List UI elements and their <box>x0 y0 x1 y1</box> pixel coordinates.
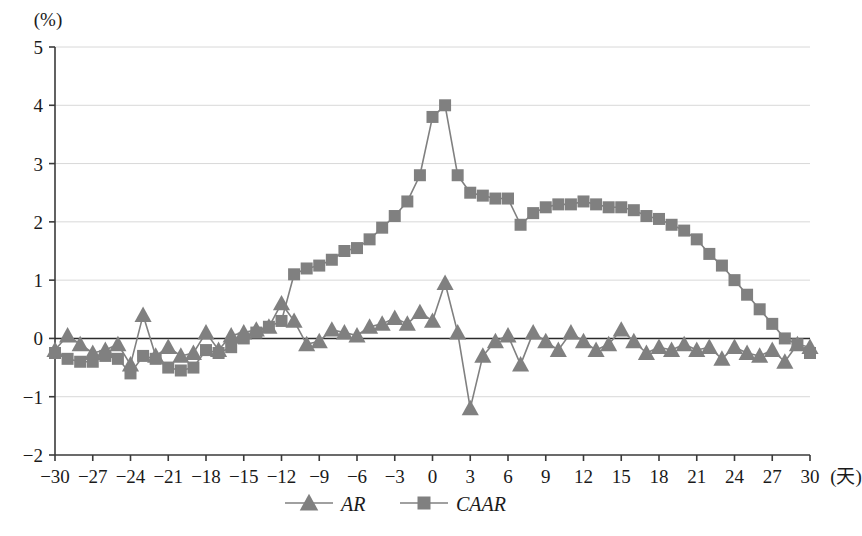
data-point-ar <box>701 339 718 354</box>
y-tick-label: 3 <box>34 154 44 175</box>
data-point-caar <box>452 169 464 181</box>
data-point-caar <box>364 233 376 245</box>
data-point-caar <box>187 362 199 374</box>
data-point-ar <box>135 307 152 322</box>
data-point-caar <box>615 201 627 213</box>
data-point-ar <box>185 344 202 359</box>
y-axis-unit-label: (%) <box>34 9 62 31</box>
event-study-chart: −2−1012345−30−27−24−21−18−15−12−9−6−3036… <box>0 0 862 536</box>
data-point-caar <box>225 341 237 353</box>
y-tick-label: 1 <box>34 270 44 291</box>
data-point-ar <box>323 321 340 336</box>
data-point-caar <box>389 210 401 222</box>
data-point-caar <box>338 245 350 257</box>
x-tick-label: −9 <box>309 466 329 487</box>
data-point-ar <box>197 324 214 339</box>
y-tick-label: 0 <box>34 328 44 349</box>
data-point-caar <box>716 260 728 272</box>
x-tick-label: 12 <box>574 466 593 487</box>
data-point-ar <box>550 342 567 357</box>
data-point-caar <box>427 111 439 123</box>
data-point-caar <box>351 242 363 254</box>
data-point-caar <box>162 362 174 374</box>
data-point-caar <box>200 344 212 356</box>
data-point-ar <box>575 333 592 348</box>
data-point-ar <box>386 309 403 324</box>
legend: ARCAAR <box>285 493 506 515</box>
x-tick-label: 3 <box>466 466 476 487</box>
data-point-caar <box>590 198 602 210</box>
x-tick-label: −12 <box>267 466 297 487</box>
chart-container: −2−1012345−30−27−24−21−18−15−12−9−6−3036… <box>0 0 862 536</box>
data-point-ar <box>525 324 542 339</box>
data-point-caar <box>276 315 288 327</box>
data-point-ar <box>562 324 579 339</box>
data-point-caar <box>301 262 313 274</box>
y-tick-label: 2 <box>34 212 44 233</box>
data-point-caar <box>703 248 715 260</box>
x-tick-label: 15 <box>612 466 631 487</box>
data-point-ar <box>512 356 529 371</box>
data-point-caar <box>313 260 325 272</box>
data-point-caar <box>678 225 690 237</box>
data-point-caar <box>515 219 527 231</box>
data-point-caar <box>666 219 678 231</box>
data-point-caar <box>779 332 791 344</box>
data-point-caar <box>326 254 338 266</box>
axes <box>55 47 810 455</box>
x-tick-label: 18 <box>650 466 669 487</box>
data-point-caar <box>628 204 640 216</box>
x-tick-label: 6 <box>503 466 513 487</box>
data-point-ar <box>537 333 554 348</box>
x-tick-label: 0 <box>428 466 438 487</box>
x-tick-label: −30 <box>40 466 70 487</box>
data-point-caar <box>175 364 187 376</box>
data-point-ar <box>650 339 667 354</box>
series-caar <box>49 99 816 379</box>
data-point-caar <box>414 169 426 181</box>
data-point-ar <box>160 339 177 354</box>
data-point-ar <box>449 324 466 339</box>
x-axis-unit-label: (天) <box>830 466 862 488</box>
data-point-caar <box>137 350 149 362</box>
data-point-caar <box>766 318 778 330</box>
x-tick-label: 24 <box>725 466 745 487</box>
x-tick-label: −24 <box>116 466 146 487</box>
x-tick-label: −21 <box>153 466 183 487</box>
x-tick-label: −6 <box>347 466 367 487</box>
x-tick-label: −27 <box>78 466 108 487</box>
legend-label-caar: CAAR <box>456 493 506 515</box>
legend-marker-caar <box>418 497 431 510</box>
x-tick-label: 27 <box>763 466 782 487</box>
legend-marker-ar <box>300 494 319 511</box>
data-point-caar <box>401 195 413 207</box>
series-ar <box>46 275 818 416</box>
y-axis-ticks: −2−1012345 <box>23 37 55 466</box>
data-point-caar <box>729 274 741 286</box>
data-point-caar <box>489 193 501 205</box>
data-point-caar <box>112 353 124 365</box>
data-point-ar <box>462 400 479 415</box>
data-point-ar <box>613 321 630 336</box>
data-point-ar <box>726 339 743 354</box>
data-point-caar <box>578 195 590 207</box>
data-point-caar <box>74 356 86 368</box>
x-tick-label: −3 <box>385 466 405 487</box>
data-point-caar <box>640 210 652 222</box>
y-tick-label: −2 <box>23 445 43 466</box>
data-point-caar <box>754 303 766 315</box>
data-point-caar <box>540 201 552 213</box>
data-point-ar <box>437 275 454 290</box>
data-point-ar <box>424 312 441 327</box>
y-tick-label: 4 <box>34 95 44 116</box>
data-point-ar <box>411 304 428 319</box>
x-axis-ticks: −30−27−24−21−18−15−12−9−6−30369121518212… <box>40 455 819 487</box>
x-tick-label: −18 <box>191 466 221 487</box>
data-point-caar <box>741 289 753 301</box>
data-point-caar <box>603 201 615 213</box>
data-point-ar <box>499 327 516 342</box>
data-point-caar <box>653 213 665 225</box>
data-point-ar <box>59 327 76 342</box>
data-point-ar <box>286 312 303 327</box>
y-tick-label: 5 <box>34 37 44 58</box>
